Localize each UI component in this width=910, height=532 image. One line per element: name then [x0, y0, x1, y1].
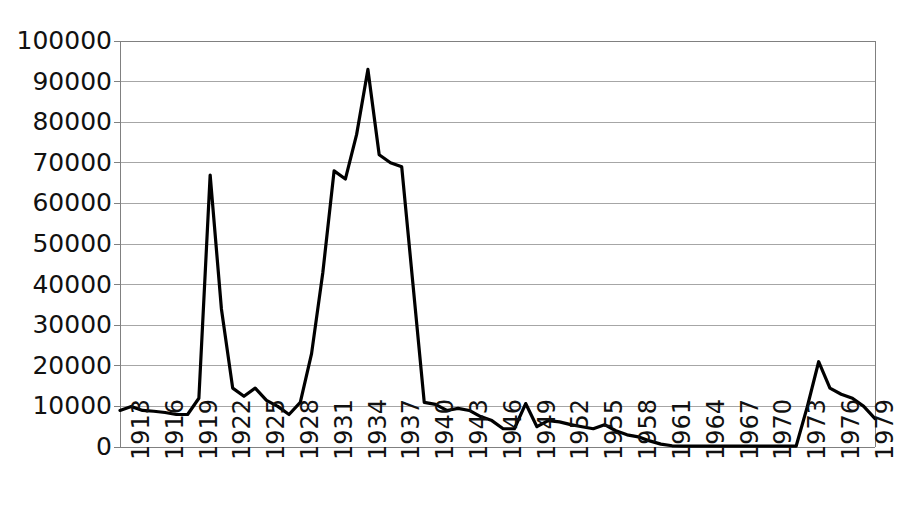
x-tick-label: 1940 [433, 399, 457, 460]
x-tick-label: 1934 [366, 399, 390, 460]
x-tick-label: 1916 [163, 399, 187, 460]
x-tick-label: 1943 [467, 399, 491, 460]
x-tick-label: 1931 [332, 399, 356, 460]
x-tick-label: 1937 [399, 399, 423, 460]
x-tick-label: 1922 [230, 399, 254, 460]
x-tick-label: 1952 [568, 399, 592, 460]
x-tick-label: 1913 [129, 399, 153, 460]
x-tick-label: 1961 [670, 399, 694, 460]
x-tick-label: 1958 [636, 399, 660, 460]
x-tick-label: 1925 [264, 399, 288, 460]
x-tick-label: 1928 [298, 399, 322, 460]
x-tick-label: 1976 [839, 399, 863, 460]
x-tick-label: 1955 [602, 399, 626, 460]
x-axis: 1913191619191922192519281931193419371940… [0, 0, 910, 532]
x-tick-label: 1946 [501, 399, 525, 460]
x-tick-label: 1970 [771, 399, 795, 460]
x-tick-label: 1973 [805, 399, 829, 460]
x-tick-label: 1919 [197, 399, 221, 460]
line-chart: 0100002000030000400005000060000700008000… [0, 0, 910, 532]
x-tick-label: 1967 [738, 399, 762, 460]
x-tick-label: 1949 [535, 399, 559, 460]
x-tick-label: 1979 [873, 399, 897, 460]
x-tick-label: 1964 [704, 399, 728, 460]
